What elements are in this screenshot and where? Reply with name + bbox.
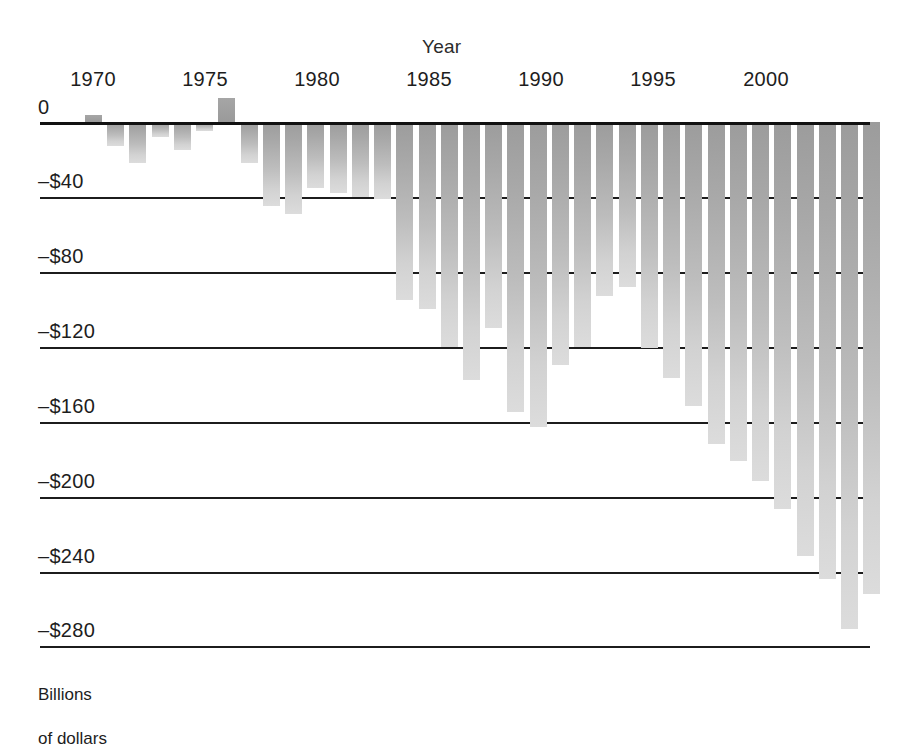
bar-1975 (218, 98, 235, 122)
bar-1990 (552, 122, 569, 365)
bar-1994 (641, 122, 658, 348)
bar-2002 (819, 122, 836, 579)
bar-1981 (352, 122, 369, 197)
bar-1983 (396, 122, 413, 300)
bar-1992 (596, 122, 613, 296)
bar-1999 (752, 122, 769, 481)
bar-2001 (797, 122, 814, 556)
bar-2003 (841, 122, 858, 629)
y-axis-caption: Billions of dollars (38, 662, 107, 748)
bar-1979 (307, 122, 324, 188)
bar-1997 (708, 122, 725, 444)
bar-1980 (330, 122, 347, 193)
bar-1978 (285, 122, 302, 214)
bar-1984 (419, 122, 436, 309)
bar-1989 (530, 122, 547, 427)
bar-1976 (241, 122, 258, 163)
bar-1985 (441, 122, 458, 347)
zero-baseline (40, 122, 870, 125)
bar-2004 (863, 122, 880, 594)
bar-1993 (619, 122, 636, 287)
bar-1973 (174, 122, 191, 150)
plot-area (40, 0, 870, 738)
bar-1988 (507, 122, 524, 412)
bar-2000 (774, 122, 791, 509)
bar-1969 (85, 115, 102, 122)
bar-1971 (129, 122, 146, 163)
bar-1991 (574, 122, 591, 347)
bar-1977 (263, 122, 280, 206)
bar-1982 (374, 122, 391, 199)
bar-1970 (107, 122, 124, 146)
bar-1986 (463, 122, 480, 380)
bar-1987 (485, 122, 502, 328)
y-axis-caption-line2: of dollars (38, 728, 107, 748)
bar-1998 (730, 122, 747, 461)
y-axis-caption-line1: Billions (38, 684, 107, 706)
bar-1995 (663, 122, 680, 378)
bar-1996 (685, 122, 702, 406)
